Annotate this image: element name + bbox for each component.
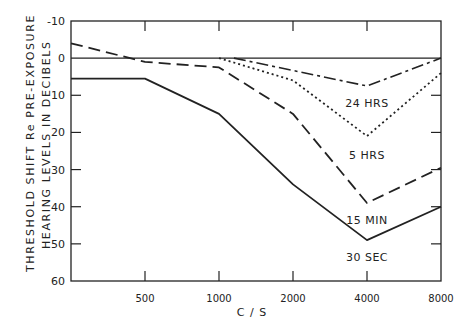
y-axis-label: THRESHOLD SHIFT Re PRE-EXPOSURE HEARING … (0, 0, 60, 323)
y-axis-label-line-2: HEARING LEVELS IN DECIBELS (40, 40, 53, 249)
series-line-5-hrs (219, 58, 441, 136)
x-axis-label: C / S (237, 306, 267, 319)
series-label-30-sec: 30 SEC (346, 251, 388, 264)
x-tick-label: 4000 (354, 293, 379, 304)
plot-frame (71, 21, 441, 281)
x-tick-label: 8000 (428, 293, 453, 304)
series-label-5-hrs: 5 HRS (349, 149, 385, 162)
x-tick-label: 1000 (206, 293, 231, 304)
x-tick-label: 500 (135, 293, 154, 304)
series-label-15-min: 15 MIN (346, 214, 387, 227)
plot-area: -1001020304050605001000200040008000C / S… (0, 0, 464, 323)
series-line-24-hrs (234, 58, 441, 86)
threshold-shift-chart: -1001020304050605001000200040008000C / S… (0, 0, 464, 323)
y-axis-label-line-1: THRESHOLD SHIFT Re PRE-EXPOSURE (24, 14, 37, 272)
x-tick-label: 2000 (280, 293, 305, 304)
series-line-15-min (71, 43, 441, 203)
series-label-24-hrs: 24 HRS (345, 97, 388, 110)
